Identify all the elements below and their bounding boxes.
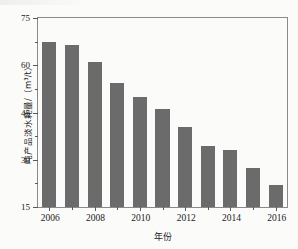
bar: [201, 146, 215, 207]
x-axis-tick: 2016: [276, 207, 277, 211]
y-axis-minor-tick: [35, 89, 38, 90]
x-axis-tick-label: 2008: [86, 213, 105, 223]
bar: [269, 185, 283, 207]
x-axis-minor-tick: [208, 207, 209, 210]
bar: [42, 42, 56, 207]
x-axis-tick: 2012: [185, 207, 186, 211]
bar: [110, 83, 124, 207]
bar-chart: 吨产品淡水耗量/（m³/t） 1530456075200620082010201…: [0, 0, 298, 249]
scan-artifact: [0, 0, 298, 5]
bar: [246, 168, 260, 207]
y-axis-minor-tick: [35, 136, 38, 137]
x-axis-tick: 2008: [95, 207, 96, 211]
y-axis-tick-label: 30: [21, 155, 30, 165]
x-axis-tick: 2010: [140, 207, 141, 211]
bar: [65, 45, 79, 207]
y-axis-tick: 45: [33, 113, 38, 114]
y-axis-tick-label: 45: [21, 108, 30, 118]
y-axis-minor-tick: [35, 42, 38, 43]
bar: [88, 62, 102, 207]
x-axis-tick-label: 2006: [41, 213, 60, 223]
y-axis-tick: 30: [33, 160, 38, 161]
y-axis-tick-label: 60: [21, 60, 30, 70]
x-axis-tick: 2014: [230, 207, 231, 211]
bar: [155, 109, 169, 207]
x-axis-title: 年份: [37, 230, 288, 243]
x-axis-minor-tick: [117, 207, 118, 210]
y-axis-minor-tick: [35, 183, 38, 184]
plot-area: 1530456075200620082010201220142016: [37, 17, 288, 208]
x-axis-minor-tick: [163, 207, 164, 210]
y-axis-tick-label: 15: [21, 202, 30, 212]
x-axis-minor-tick: [253, 207, 254, 210]
x-axis-tick-label: 2010: [131, 213, 150, 223]
x-axis-tick-label: 2014: [222, 213, 241, 223]
x-axis-tick-label: 2012: [177, 213, 196, 223]
bar: [223, 150, 237, 207]
x-axis-tick-label: 2016: [267, 213, 286, 223]
y-axis-tick: 75: [33, 18, 38, 19]
x-axis-tick: 2006: [49, 207, 50, 211]
bar: [178, 127, 192, 207]
bar: [133, 97, 147, 207]
y-axis-tick-label: 75: [21, 13, 30, 23]
x-axis-minor-tick: [72, 207, 73, 210]
y-axis-tick: 15: [33, 207, 38, 208]
y-axis-tick: 60: [33, 65, 38, 66]
